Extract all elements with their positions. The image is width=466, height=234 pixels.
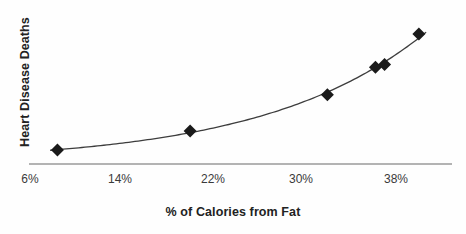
data-point-group — [51, 27, 425, 156]
x-axis-tick-labels: 6% 14% 22% 30% 38% — [0, 172, 466, 192]
trend-curve — [51, 33, 426, 151]
x-tick-label: 30% — [289, 172, 313, 186]
data-point-marker — [412, 27, 425, 40]
data-point-marker — [184, 125, 197, 138]
plot-area — [29, 8, 453, 164]
x-tick-label: 6% — [21, 172, 38, 186]
x-tick-label: 22% — [201, 172, 225, 186]
x-tick-label: 38% — [384, 172, 408, 186]
x-axis-line — [29, 163, 452, 165]
x-axis-title: % of Calories from Fat — [0, 205, 466, 219]
chart-container: Heart Disease Deaths 6% 14% 22% 30% 38% … — [0, 0, 466, 234]
x-tick-label: 14% — [108, 172, 132, 186]
plot-svg — [29, 8, 453, 164]
data-point-marker — [51, 143, 64, 156]
